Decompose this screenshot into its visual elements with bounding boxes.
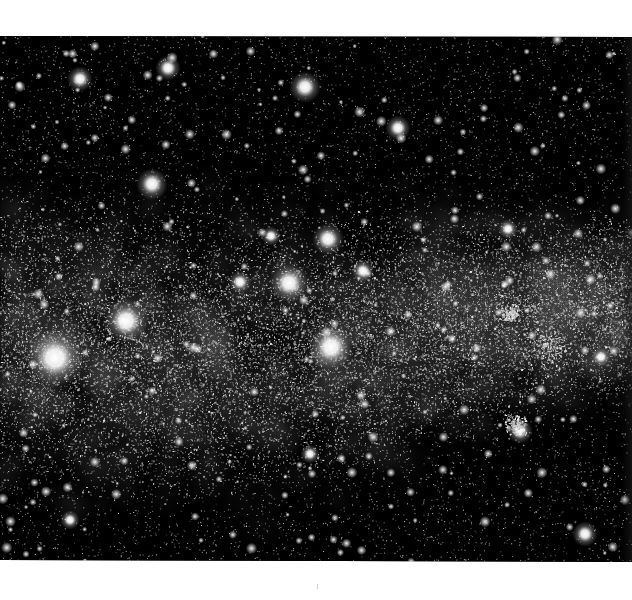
photo-edge-shadow — [622, 36, 632, 562]
page — [0, 0, 632, 600]
scan-artifact — [317, 584, 318, 589]
star-field-canvas — [0, 36, 632, 562]
milky-way-photo — [0, 36, 632, 562]
